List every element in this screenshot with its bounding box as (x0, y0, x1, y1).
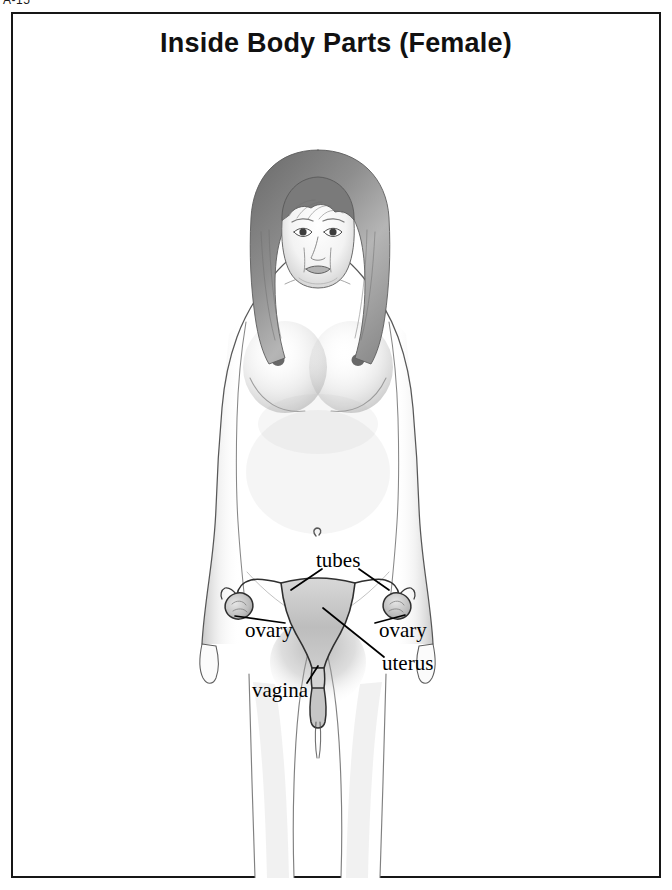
female-body-pencil-drawing (13, 72, 659, 878)
ribcage-shade (258, 394, 378, 454)
body-figure (200, 150, 435, 878)
vagina (310, 688, 326, 728)
illustration-plate: Inside Body Parts (Female) (11, 12, 661, 878)
page-title: Inside Body Parts (Female) (13, 28, 659, 59)
label-ovary-left[interactable]: ovary (245, 620, 293, 641)
label-vagina[interactable]: vagina (252, 680, 308, 701)
label-uterus[interactable]: uterus (382, 653, 433, 674)
label-tubes[interactable]: tubes (316, 550, 360, 571)
label-ovary-right[interactable]: ovary (379, 620, 427, 641)
hand-left (200, 644, 218, 683)
iris-left (299, 228, 306, 235)
page-reference: A-15 (3, 0, 30, 7)
iris-right (329, 228, 336, 235)
figure-stage: tubes ovary ovary uterus vagina (13, 72, 659, 878)
